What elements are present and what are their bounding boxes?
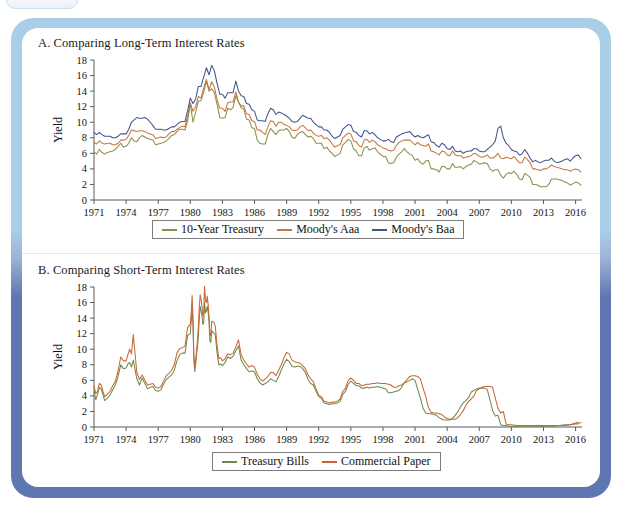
legend-label-treasury-bills: Treasury Bills [241, 454, 309, 469]
svg-text:16: 16 [77, 70, 88, 81]
svg-text:2007: 2007 [469, 207, 490, 218]
svg-text:1989: 1989 [276, 207, 297, 218]
legend-label-moodys-baa: Moody's Baa [391, 222, 454, 237]
svg-text:2010: 2010 [501, 434, 522, 445]
svg-text:1998: 1998 [372, 207, 393, 218]
svg-text:1971: 1971 [84, 207, 105, 218]
svg-text:1992: 1992 [308, 434, 329, 445]
svg-text:1980: 1980 [180, 207, 201, 218]
legend-label-commercial-paper: Commercial Paper [341, 454, 431, 469]
legend-swatch-moodys-aaa [277, 229, 292, 231]
svg-text:1995: 1995 [340, 207, 361, 218]
svg-text:1989: 1989 [276, 434, 297, 445]
svg-text:0: 0 [82, 422, 87, 433]
svg-text:2016: 2016 [565, 207, 586, 218]
svg-text:2010: 2010 [501, 207, 522, 218]
svg-text:1983: 1983 [212, 434, 233, 445]
svg-text:Yield: Yield [51, 344, 65, 370]
legend-swatch-moodys-baa [372, 229, 387, 231]
legend-label-moodys-aaa: Moody's Aaa [296, 222, 359, 237]
svg-text:2: 2 [82, 179, 87, 190]
svg-text:Yield: Yield [51, 117, 65, 143]
panel-a-legend: 10-Year Treasury Moody's Aaa Moody's Baa [152, 220, 464, 239]
svg-text:1983: 1983 [212, 207, 233, 218]
svg-text:8: 8 [82, 132, 87, 143]
svg-text:6: 6 [82, 375, 87, 386]
top-tab-fragment [6, 0, 78, 9]
svg-text:1971: 1971 [84, 434, 105, 445]
svg-text:1995: 1995 [340, 434, 361, 445]
figure-page: A. Comparing Long-Term Interest Rates 02… [0, 0, 622, 515]
legend-item-commercial-paper[interactable]: Commercial Paper [322, 454, 431, 469]
svg-text:4: 4 [82, 163, 88, 174]
svg-text:8: 8 [82, 359, 87, 370]
svg-text:2004: 2004 [437, 207, 459, 218]
svg-text:1986: 1986 [244, 207, 265, 218]
svg-text:12: 12 [77, 101, 88, 112]
svg-text:12: 12 [77, 328, 88, 339]
svg-text:2013: 2013 [533, 207, 554, 218]
svg-text:10: 10 [77, 344, 88, 355]
legend-swatch-treasury-bills [222, 461, 237, 463]
svg-text:1986: 1986 [244, 434, 265, 445]
svg-text:6: 6 [82, 148, 87, 159]
svg-text:2016: 2016 [565, 434, 586, 445]
svg-text:2: 2 [82, 406, 87, 417]
svg-text:2001: 2001 [405, 207, 426, 218]
svg-text:0: 0 [82, 195, 87, 206]
svg-text:2007: 2007 [469, 434, 490, 445]
svg-text:18: 18 [77, 282, 88, 293]
legend-swatch-10-year-treasury [162, 229, 177, 231]
svg-text:1974: 1974 [116, 207, 138, 218]
svg-text:1992: 1992 [308, 207, 329, 218]
svg-text:14: 14 [77, 86, 88, 97]
svg-text:1977: 1977 [148, 207, 169, 218]
svg-text:14: 14 [77, 313, 88, 324]
legend-item-moodys-baa[interactable]: Moody's Baa [372, 222, 454, 237]
svg-text:2004: 2004 [437, 434, 459, 445]
legend-label-10-year-treasury: 10-Year Treasury [181, 222, 264, 237]
svg-text:1998: 1998 [372, 434, 393, 445]
legend-item-10-year-treasury[interactable]: 10-Year Treasury [162, 222, 264, 237]
svg-text:2001: 2001 [405, 434, 426, 445]
legend-swatch-commercial-paper [322, 461, 337, 463]
svg-text:16: 16 [77, 297, 88, 308]
svg-text:1977: 1977 [148, 434, 169, 445]
legend-item-moodys-aaa[interactable]: Moody's Aaa [277, 222, 359, 237]
legend-item-treasury-bills[interactable]: Treasury Bills [222, 454, 309, 469]
svg-text:1974: 1974 [116, 434, 138, 445]
svg-text:1980: 1980 [180, 434, 201, 445]
panel-b-legend: Treasury Bills Commercial Paper [212, 452, 441, 471]
svg-text:4: 4 [82, 390, 88, 401]
svg-text:10: 10 [77, 117, 88, 128]
svg-text:2013: 2013 [533, 434, 554, 445]
svg-text:18: 18 [77, 55, 88, 66]
